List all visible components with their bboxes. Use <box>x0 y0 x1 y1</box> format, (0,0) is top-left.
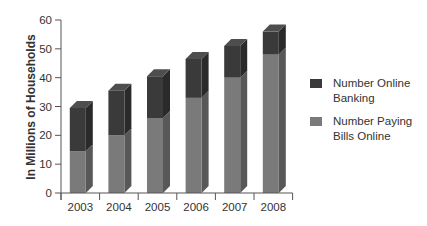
legend-label-line1: Number Online <box>333 77 410 89</box>
bar-segment <box>147 118 163 193</box>
bars <box>70 25 286 193</box>
bar-segment <box>263 55 279 193</box>
legend-swatch-paying-bills <box>310 117 322 126</box>
bar-side-segment <box>202 52 209 98</box>
bar-2006 <box>186 52 209 193</box>
y-tick-label: 40 <box>39 72 52 84</box>
legend-swatch-online-banking <box>310 79 322 88</box>
bar-segment <box>224 78 240 193</box>
bar-segment <box>70 108 86 151</box>
x-tick-label: 2004 <box>106 201 132 213</box>
y-tick-label: 10 <box>39 158 52 170</box>
bar-segment <box>108 135 124 193</box>
bar-side-segment <box>240 71 247 193</box>
bar-segment <box>108 91 124 136</box>
legend-label-line2: Bills Online <box>333 130 391 142</box>
x-axis: 200320042005200620072008 <box>61 193 293 213</box>
bar-segment <box>186 98 202 193</box>
y-axis-label: In Millions of Households <box>24 34 38 180</box>
legend-label-paying-bills: Number Paying Bills Online <box>333 114 413 144</box>
bar-side-segment <box>124 84 131 136</box>
bar-side-segment <box>86 144 93 193</box>
bar-2008 <box>263 25 286 193</box>
bar-side-segment <box>163 111 170 193</box>
bar-side-segment <box>86 101 93 151</box>
x-tick-label: 2003 <box>68 201 94 213</box>
bar-segment <box>224 46 240 78</box>
legend-item-online-banking: Number Online Banking <box>310 76 425 106</box>
legend-label-online-banking: Number Online Banking <box>333 76 413 106</box>
bar-segment <box>147 76 163 118</box>
legend-label-line1: Number Paying <box>333 115 412 127</box>
y-axis: 0102030405060 <box>39 14 61 200</box>
bar-2007 <box>224 39 247 193</box>
y-tick-label: 30 <box>39 101 52 113</box>
bar-side-segment <box>279 48 286 193</box>
y-tick-label: 20 <box>39 129 52 141</box>
bar-2004 <box>108 84 131 193</box>
x-tick-label: 2006 <box>183 201 209 213</box>
y-tick-label: 60 <box>39 14 52 26</box>
x-tick-label: 2007 <box>222 201 248 213</box>
bar-segment <box>263 32 279 55</box>
x-tick-label: 2008 <box>261 201 287 213</box>
y-tick-label: 50 <box>39 43 52 55</box>
y-tick-label: 0 <box>46 187 52 199</box>
legend-item-paying-bills: Number Paying Bills Online <box>310 114 425 144</box>
legend-label-line2: Banking <box>333 92 375 104</box>
bar-side-segment <box>124 128 131 193</box>
bar-2003 <box>70 101 93 193</box>
bar-segment <box>70 151 86 193</box>
bar-segment <box>186 59 202 98</box>
x-tick-label: 2005 <box>145 201 171 213</box>
bar-side-segment <box>202 91 209 193</box>
bar-side-segment <box>163 69 170 118</box>
legend: Number Online Banking Number Paying Bill… <box>310 76 425 152</box>
bar-2005 <box>147 69 170 193</box>
